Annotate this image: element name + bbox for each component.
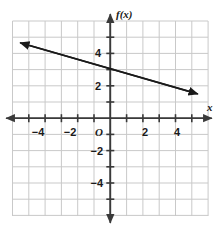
x-tick-label-2: 2 bbox=[142, 126, 148, 138]
x-tick-label--2: −2 bbox=[64, 126, 77, 138]
origin-label: O bbox=[95, 126, 103, 138]
y-tick-label--2: −2 bbox=[90, 145, 103, 157]
y-axis-label: f(x) bbox=[116, 8, 133, 21]
graph-container: −4 −2 2 4 4 2 −2 −4 O f(x) x bbox=[0, 0, 219, 230]
y-tick-label-4: 4 bbox=[95, 47, 102, 59]
coordinate-plane: −4 −2 2 4 4 2 −2 −4 O f(x) x bbox=[0, 0, 219, 230]
x-tick-label--4: −4 bbox=[32, 126, 45, 138]
y-tick-label-2: 2 bbox=[95, 80, 101, 92]
x-tick-label-4: 4 bbox=[174, 126, 181, 138]
y-tick-label--4: −4 bbox=[90, 177, 103, 189]
x-axis-label: x bbox=[206, 101, 213, 113]
